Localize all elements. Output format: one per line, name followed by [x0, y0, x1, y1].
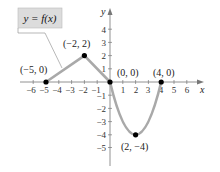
point-m5-0: [43, 79, 48, 84]
leader-line: [18, 28, 62, 68]
svg-text:−6: −6: [26, 85, 36, 95]
point-m2-2: [82, 53, 87, 58]
svg-text:6: 6: [185, 85, 190, 95]
function-label: y = f(x): [22, 12, 56, 25]
svg-text:3: 3: [102, 38, 107, 48]
label-m5-0: (−5, 0): [20, 64, 47, 76]
svg-text:−2: −2: [96, 104, 106, 114]
svg-text:3: 3: [146, 85, 151, 95]
svg-text:−2: −2: [78, 85, 88, 95]
svg-text:2: 2: [134, 85, 139, 95]
x-axis-label: x: [199, 84, 205, 95]
svg-text:−5: −5: [96, 143, 106, 153]
svg-text:−5: −5: [39, 85, 49, 95]
svg-text:5: 5: [172, 85, 177, 95]
svg-text:−3: −3: [96, 117, 106, 127]
y-axis-arrow-icon: [108, 8, 113, 15]
svg-text:−1: −1: [96, 91, 106, 101]
x-tick-labels: −6 −5 −4 −3 −2 −1 1 2 3 4 5 6: [26, 85, 190, 95]
label-4-0: (4, 0): [153, 67, 175, 79]
point-2-m4: [133, 132, 138, 137]
label-m2-2: (−2, 2): [63, 38, 90, 50]
svg-text:−4: −4: [96, 130, 106, 140]
piecewise-linear-segment: [46, 56, 110, 82]
function-graph: y = f(x) x y −6 −5 −4 −3 −2 −1 1 2 3 4 5: [0, 0, 220, 172]
label-2-m4: (2, −4): [121, 141, 148, 153]
svg-text:2: 2: [102, 51, 107, 61]
point-4-0: [159, 79, 164, 84]
label-0-0: (0, 0): [117, 67, 139, 79]
svg-text:−4: −4: [52, 85, 62, 95]
svg-text:4: 4: [102, 25, 107, 35]
point-0-0: [107, 79, 112, 84]
function-label-callout: y = f(x): [18, 8, 62, 68]
y-axis-label: y: [100, 6, 106, 17]
svg-text:−3: −3: [65, 85, 75, 95]
svg-text:1: 1: [121, 85, 126, 95]
